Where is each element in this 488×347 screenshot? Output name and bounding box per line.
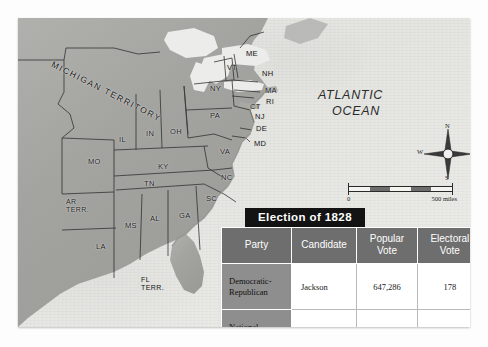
state-label-pa: PA (210, 112, 220, 120)
scale-start-label: 0 (347, 195, 350, 202)
compass-north-label: N (445, 122, 450, 129)
state-label-me: ME (246, 50, 258, 58)
cell-party: Democratic- Republican (222, 264, 292, 310)
table-body: Democratic- Republican Jackson 647,286 1… (222, 264, 471, 327)
florida-territory-label: FL TERR. (141, 276, 164, 292)
state-label-ky: KY (158, 163, 169, 171)
table-row: Democratic- Republican Jackson 647,286 1… (222, 264, 471, 310)
state-label-ms: MS (125, 222, 137, 230)
ocean-label: ATLANTIC OCEAN (318, 88, 383, 119)
column-header-party-line1: Party (245, 239, 268, 250)
compass-west-label: W (417, 148, 423, 155)
column-header-electoral-vote: Electoral Vote (417, 228, 470, 264)
scale-seg-2 (370, 187, 391, 191)
column-header-popular-line2: Vote (377, 245, 397, 256)
cell-party: National Republican (222, 310, 292, 327)
scale-seg-3 (390, 187, 411, 191)
arkansas-line2: TERR. (66, 206, 89, 214)
ocean-label-line2: OCEAN (318, 104, 383, 120)
election-table-title: Election of 1828 (245, 208, 365, 227)
state-label-mo: MO (88, 158, 101, 166)
state-label-sc: SC (206, 195, 217, 203)
state-label-de: DE (256, 125, 267, 133)
scale-tick-left (348, 183, 349, 195)
scale-seg-1 (349, 187, 370, 191)
compass-rose: N S W E (416, 123, 470, 185)
arkansas-line1: AR (66, 198, 89, 206)
table-header-row: Party Candidate Popular Vote Electoral V… (222, 228, 471, 264)
cell-candidate: Adams (291, 310, 356, 327)
map-plate: ATLANTIC OCEAN MICHIGAN TERRITORY MEVTNH… (18, 18, 470, 327)
cell-electoral-vote: 178 (417, 264, 470, 310)
state-label-va: VA (220, 148, 230, 156)
column-header-party: Party (222, 228, 292, 264)
scale-bar: 0 500 miles (348, 186, 455, 208)
table-header: Party Candidate Popular Vote Electoral V… (222, 228, 471, 264)
state-label-nh: NH (262, 70, 273, 78)
state-label-ri: RI (266, 98, 274, 106)
compass-south-label: S (445, 174, 449, 181)
cell-popular-vote: 647,286 (357, 264, 418, 310)
scale-end-label: 500 miles (432, 195, 457, 202)
party-line1: Democratic- (229, 276, 271, 286)
election-results-table: Party Candidate Popular Vote Electoral V… (221, 227, 470, 327)
state-label-vt: VT (227, 64, 237, 72)
column-header-electoral-line1: Electoral (430, 233, 469, 244)
cell-popular-vote: 508,064 (357, 310, 418, 327)
arkansas-territory-label: AR TERR. (66, 198, 89, 214)
florida-line2: TERR. (141, 284, 164, 292)
state-label-ct: CT (250, 103, 261, 111)
column-header-popular-vote: Popular Vote (357, 228, 418, 264)
scale-seg-5 (431, 187, 452, 191)
column-header-candidate: Candidate (291, 228, 356, 264)
state-label-al: AL (150, 215, 160, 223)
column-header-electoral-line2: Vote (440, 245, 460, 256)
state-label-ma: MA (265, 87, 277, 95)
map-figure: ATLANTIC OCEAN MICHIGAN TERRITORY MEVTNH… (0, 0, 488, 347)
column-header-candidate-line1: Candidate (301, 239, 347, 250)
column-header-popular-line1: Popular (370, 233, 404, 244)
cell-electoral-vote: 83 (417, 310, 470, 327)
table-row: National Republican Adams 508,064 83 (222, 310, 471, 327)
state-label-tn: TN (144, 180, 155, 188)
state-label-oh: OH (170, 128, 182, 136)
party-line2: Republican (229, 287, 268, 297)
state-label-in: IN (146, 130, 154, 138)
cell-candidate: Jackson (291, 264, 356, 310)
state-label-nc: NC (221, 174, 232, 182)
state-label-ga: GA (179, 212, 190, 220)
state-label-la: LA (96, 243, 106, 251)
scale-seg-4 (411, 187, 432, 191)
state-label-md: MD (254, 140, 266, 148)
scale-bar-track (348, 186, 453, 192)
state-label-ny: NY (210, 85, 221, 93)
state-label-nj: NJ (255, 113, 265, 121)
ocean-label-line1: ATLANTIC (318, 88, 383, 104)
florida-line1: FL (141, 276, 164, 284)
election-table-block: Election of 1828 Party Candidate Popular… (221, 208, 470, 327)
party-line1: National (229, 322, 258, 327)
scale-tick-right (452, 183, 453, 195)
state-label-il: IL (119, 136, 126, 144)
